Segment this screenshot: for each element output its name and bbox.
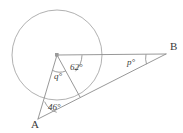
angle-label-p: p°	[126, 57, 136, 67]
angle-arc-p	[146, 54, 147, 64]
angle-label-62: 62°	[70, 62, 83, 72]
center-point-marker	[55, 53, 59, 57]
angle-label-q: q°	[54, 71, 63, 81]
geometry-figure-svg: 62° q° 46° p° A B	[0, 0, 183, 133]
point-label-a: A	[31, 118, 39, 130]
angle-label-46: 46°	[48, 102, 61, 112]
segment-center-to-b	[57, 54, 166, 55]
point-label-b: B	[170, 40, 177, 52]
geometry-diagram: 62° q° 46° p° A B	[0, 0, 183, 133]
